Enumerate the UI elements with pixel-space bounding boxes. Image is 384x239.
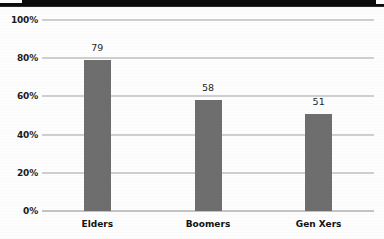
bar-gen-xers[interactable] <box>305 114 332 211</box>
y-axis-tick-label-0: 0% <box>0 206 38 216</box>
bar-elders[interactable] <box>84 60 111 211</box>
y-axis-tick-label-40: 40% <box>0 130 38 140</box>
x-axis-label-gen-xers: Gen Xers <box>264 219 374 229</box>
x-axis-label-boomers: Boomers <box>153 219 263 229</box>
chart-page: 100% 80% 60% 40% 20% 0% 79 58 51 Elders … <box>0 0 384 239</box>
top-band-left-notch <box>0 0 22 3</box>
top-band-right-notch <box>376 0 384 4</box>
bar-value-gen-xers: 51 <box>297 96 341 107</box>
y-axis-tick-label-20: 20% <box>0 168 38 178</box>
gridline-100 <box>42 19 374 21</box>
gridline-80 <box>42 57 374 59</box>
y-axis-tick-label-100: 100% <box>0 15 38 25</box>
y-axis-tick-label-60: 60% <box>0 91 38 101</box>
bar-value-elders: 79 <box>75 42 119 53</box>
top-band-edge <box>0 6 384 7</box>
x-axis-label-elders: Elders <box>42 219 152 229</box>
bar-value-boomers: 58 <box>186 82 230 93</box>
y-axis-tick-label-80: 80% <box>0 53 38 63</box>
bar-boomers[interactable] <box>195 100 222 211</box>
